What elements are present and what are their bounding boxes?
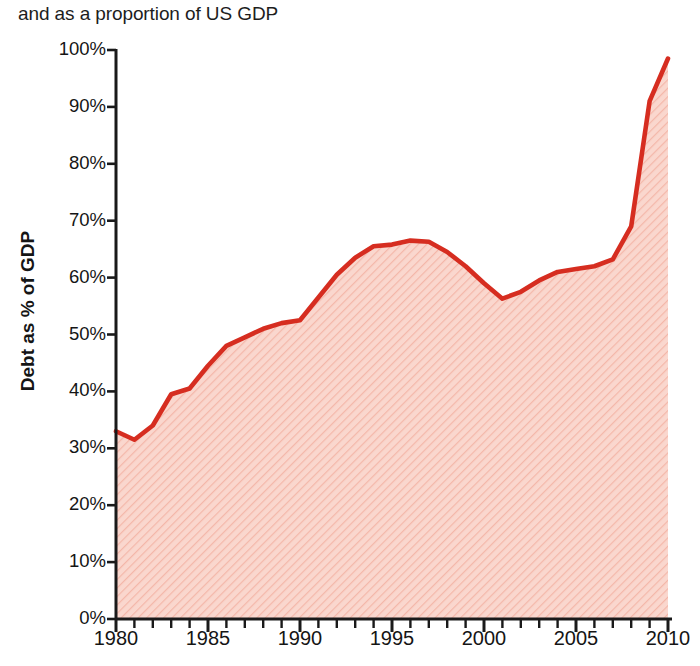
x-axis-tick-label: 1995 — [370, 627, 415, 650]
plot-area-fill — [116, 59, 668, 619]
x-axis-tick-label: 2000 — [462, 627, 507, 650]
x-axis-tick-label: 1980 — [94, 627, 139, 650]
area-chart-plot — [0, 0, 700, 666]
x-axis-tick-label: 1990 — [278, 627, 323, 650]
x-axis-tick-label: 1985 — [186, 627, 231, 650]
chart-container: and as a proportion of US GDP Debt as % … — [0, 0, 700, 666]
x-axis-tick-label: 2005 — [554, 627, 599, 650]
x-axis-tick-label: 2010 — [646, 627, 691, 650]
